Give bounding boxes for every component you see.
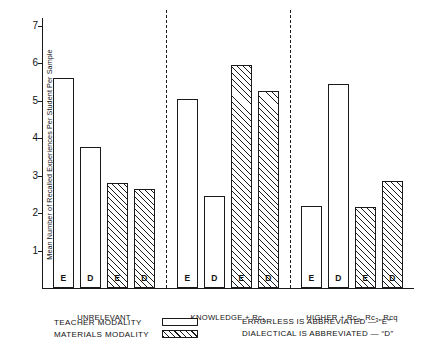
y-tick-1: 1	[42, 251, 47, 252]
y-tick-label: 1	[32, 245, 38, 256]
bar-letter-label: D	[329, 273, 348, 283]
bar-letter-label: E	[54, 273, 73, 283]
legend-label-materials: MATERIALS MODALITY	[54, 330, 162, 339]
bar: D	[328, 84, 349, 288]
abbreviation-notes: ERRORLESS IS ABBREVIATED — “E” DIALECTIC…	[242, 316, 393, 340]
bar: D	[258, 91, 279, 288]
y-tick-mark	[38, 251, 43, 252]
x-axis-line	[42, 288, 414, 289]
legend-row-teacher: TEACHER MODALITY	[54, 316, 198, 328]
y-tick-5: 5	[42, 101, 47, 102]
note-dialectical: DIALECTICAL IS ABBREVIATED — “D”	[242, 328, 393, 340]
plot-area: 1234567 EDEDEDEDEDED UNRELEVANTKNOWLEDGE…	[42, 18, 414, 288]
y-tick-label: 6	[32, 57, 38, 68]
bar: E	[107, 183, 128, 288]
bar: D	[80, 147, 101, 288]
y-tick-mark	[38, 176, 43, 177]
bar: D	[204, 196, 225, 288]
y-tick-4: 4	[42, 138, 47, 139]
bar: E	[355, 207, 376, 288]
bar-letter-label: E	[232, 273, 251, 283]
legend-row-materials: MATERIALS MODALITY	[54, 328, 198, 340]
legend-swatch-materials-hatched-rectangle	[162, 330, 198, 338]
bar-letter-label: E	[302, 273, 321, 283]
group-divider-line	[166, 10, 167, 288]
y-axis-line	[42, 18, 43, 289]
bar: E	[301, 206, 322, 289]
note-errorless: ERRORLESS IS ABBREVIATED — “E”	[242, 316, 393, 328]
bar-letter-label: E	[108, 273, 127, 283]
legend-swatch-teacher-open-rectangle	[162, 318, 198, 326]
y-tick-label: 3	[32, 170, 38, 181]
group-divider-line	[290, 10, 291, 288]
y-tick-label: 5	[32, 95, 38, 106]
legend-label-teacher: TEACHER MODALITY	[54, 318, 162, 327]
y-tick-mark	[38, 138, 43, 139]
y-tick-mark	[38, 63, 43, 64]
bar: E	[231, 65, 252, 288]
y-tick-label: 7	[32, 20, 38, 31]
y-tick-label: 2	[32, 207, 38, 218]
bar-letter-label: E	[356, 273, 375, 283]
bar-letter-label: D	[81, 273, 100, 283]
y-tick-2: 2	[42, 213, 47, 214]
bar: D	[134, 189, 155, 288]
bar: E	[177, 99, 198, 288]
bar-letter-label: E	[178, 273, 197, 283]
bar-letter-label: D	[135, 273, 154, 283]
bar-letter-label: D	[383, 273, 402, 283]
bar-chart-figure: Mean Number of Recalled Experiences Per …	[0, 0, 429, 349]
bar: E	[53, 78, 74, 288]
y-tick-label: 4	[32, 132, 38, 143]
y-tick-mark	[38, 213, 43, 214]
modality-legend: TEACHER MODALITY MATERIALS MODALITY	[54, 316, 198, 340]
y-tick-mark	[38, 101, 43, 102]
y-tick-6: 6	[42, 63, 47, 64]
y-tick-3: 3	[42, 176, 47, 177]
bar-letter-label: D	[205, 273, 224, 283]
y-tick-7: 7	[42, 26, 47, 27]
bar-letter-label: D	[259, 273, 278, 283]
y-tick-mark	[38, 26, 43, 27]
bar: D	[382, 181, 403, 288]
